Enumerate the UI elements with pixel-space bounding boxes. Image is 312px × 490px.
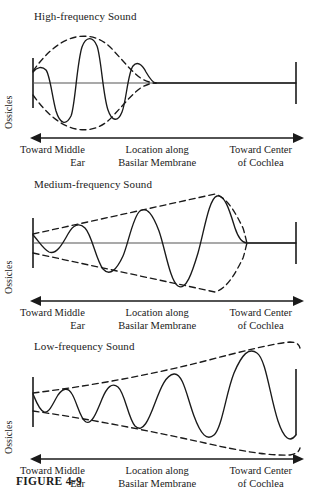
caption-right-line1: Toward Center xyxy=(229,465,292,478)
figure-container: High-frequency Sound Ossicles xyxy=(0,0,312,490)
axis-arrow-low xyxy=(30,454,304,464)
axis-caption-high: Toward Middle Ear Location along Basilar… xyxy=(0,144,312,169)
envelope-upper-high xyxy=(33,36,156,83)
envelope-lower-low xyxy=(33,411,300,455)
caption-left-line1: Toward Middle xyxy=(20,144,85,157)
caption-right-line2: of Cochlea xyxy=(229,478,292,490)
envelope-lower-medium xyxy=(33,243,247,292)
figure-caption: FIGURE 4-9 xyxy=(16,475,82,487)
caption-right-line1: Toward Center xyxy=(229,307,292,320)
waveform-medium xyxy=(33,196,296,287)
caption-left-line1: Toward Middle xyxy=(20,307,85,320)
panel-low-frequency: Low-frequency Sound Ossicles Toward Midd… xyxy=(0,331,312,490)
caption-center-line1: Location along xyxy=(118,307,196,320)
panel-medium-frequency: Medium-frequency Sound Ossicles Toward M… xyxy=(0,168,312,333)
axis-caption-medium: Toward Middle Ear Location along Basilar… xyxy=(0,307,312,332)
axis-caption-left-high: Toward Middle Ear xyxy=(20,144,85,169)
caption-center-line1: Location along xyxy=(118,144,196,157)
axis-caption-right-high: Toward Center of Cochlea xyxy=(229,144,292,169)
axis-caption-right-medium: Toward Center of Cochlea xyxy=(229,307,292,332)
panel-high-frequency: High-frequency Sound Ossicles xyxy=(0,0,312,170)
waveform-high xyxy=(33,39,296,123)
envelope-upper-medium xyxy=(33,194,247,243)
axis-caption-right-low: Toward Center of Cochlea xyxy=(229,465,292,490)
axis-arrow-medium xyxy=(30,296,304,306)
axis-caption-center-low: Location along Basilar Membrane xyxy=(118,465,196,490)
axis-caption-center-high: Location along Basilar Membrane xyxy=(118,144,196,169)
caption-center-line2: Basilar Membrane xyxy=(118,478,196,490)
caption-right-line1: Toward Center xyxy=(229,144,292,157)
caption-center-line1: Location along xyxy=(118,465,196,478)
envelope-upper-low xyxy=(33,342,300,393)
axis-arrow-high xyxy=(30,133,304,143)
axis-caption-left-medium: Toward Middle Ear xyxy=(20,307,85,332)
waveform-low xyxy=(33,351,296,439)
axis-caption-center-medium: Location along Basilar Membrane xyxy=(118,307,196,332)
